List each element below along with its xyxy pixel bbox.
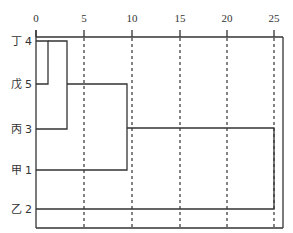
branch-with-yi2 xyxy=(36,128,274,209)
dendrogram-chart: 0 5 10 15 20 25 丁 4 戊 5 丙 3 甲 1 乙 2 xyxy=(0,0,293,233)
leaf-label-bing3: 丙 3 xyxy=(11,123,33,136)
branch-with-bing3 xyxy=(36,41,67,129)
plot-frame xyxy=(36,30,283,228)
x-axis-ticks xyxy=(36,30,274,37)
tick-label-20: 20 xyxy=(222,12,234,24)
leaf-label-jia1: 甲 1 xyxy=(11,164,33,177)
tick-label-15: 15 xyxy=(175,12,187,24)
tick-label-10: 10 xyxy=(127,12,139,24)
grid-lines xyxy=(84,38,274,228)
leaf-labels: 丁 4 戊 5 丙 3 甲 1 乙 2 xyxy=(11,35,33,216)
leaf-label-ding4: 丁 4 xyxy=(11,35,33,48)
tick-label-25: 25 xyxy=(269,12,281,24)
leaf-label-yi2: 乙 2 xyxy=(11,203,33,216)
tick-label-0: 0 xyxy=(33,12,39,24)
dendrogram-branches xyxy=(36,41,274,209)
tick-label-5: 5 xyxy=(81,12,87,24)
leaf-label-wu5: 戊 5 xyxy=(11,78,33,91)
x-axis-tick-labels: 0 5 10 15 20 25 xyxy=(33,12,280,24)
branch-with-jia1 xyxy=(36,84,127,170)
branch-ding4-wu5 xyxy=(36,41,48,84)
